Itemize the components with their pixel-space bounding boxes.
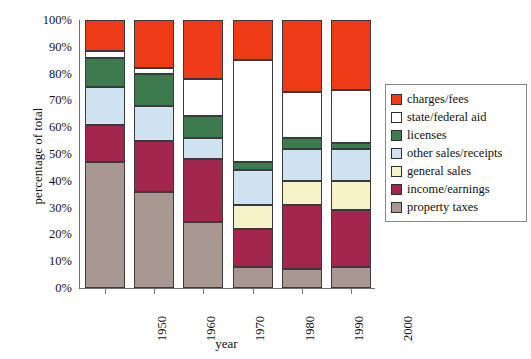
x-axis-title: year [79,336,374,352]
bar-segment[interactable] [233,205,273,229]
y-axis-tick-label: 100% [43,14,72,26]
bar-segment[interactable] [233,229,273,267]
bar-segment[interactable] [282,149,322,181]
bar-segment[interactable] [183,138,223,159]
bar-segment[interactable] [282,20,322,92]
bar-segment[interactable] [233,162,273,170]
y-axis-tick-label: 30% [49,202,72,214]
bar-segment[interactable] [331,90,371,144]
legend-item[interactable]: charges/fees [391,90,522,108]
legend-item-label: general sales [407,164,471,179]
legend-swatch-icon [391,94,402,105]
bar-segment[interactable] [282,138,322,149]
x-axis-tick-mark [203,289,204,294]
bar-segment[interactable] [233,267,273,288]
bar-segment[interactable] [331,267,371,288]
bar-segment[interactable] [282,92,322,138]
bar-segment[interactable] [85,51,125,58]
bar-segment[interactable] [85,162,125,288]
legend-swatch-icon [391,202,402,213]
legend-swatch-icon [391,148,402,159]
bar-stack [85,20,125,288]
legend-item[interactable]: property taxes [391,198,522,216]
x-axis-tick-mark [105,289,106,294]
legend-swatch-icon [391,130,402,141]
bar-segment[interactable] [134,192,174,288]
bar-stack [282,20,322,288]
legend-item[interactable]: income/earnings [391,180,522,198]
legend-item-label: other sales/receipts [407,146,502,161]
bar-segment[interactable] [85,125,125,163]
y-axis-tick-label: 10% [49,255,72,267]
bar-segment[interactable] [134,141,174,192]
legend-swatch-icon [391,166,402,177]
bar-segment[interactable] [331,143,371,148]
stacked-bar-chart: percentage of total 0%10%20%30%40%50%60%… [0,0,531,359]
legend-item[interactable]: state/federal aid [391,108,522,126]
bar-segment[interactable] [183,159,223,222]
x-axis-tick-mark [154,289,155,294]
bar-segment[interactable] [183,116,223,137]
bar-segment[interactable] [282,269,322,288]
y-axis-tick-label: 80% [49,68,72,80]
legend-swatch-icon [391,184,402,195]
legend-item-label: licenses [407,128,447,143]
x-axis-tick-mark [302,289,303,294]
bar-segment[interactable] [183,79,223,117]
x-axis-tick-mark [253,289,254,294]
bar-column-1960[interactable] [134,20,174,288]
bar-column-1980[interactable] [233,20,273,288]
bar-stack [233,20,273,288]
bar-segment[interactable] [331,149,371,181]
plot-area: 195019601970198019902000 [79,20,375,289]
bar-column-1970[interactable] [183,20,223,288]
y-axis-tick-label: 60% [49,121,72,133]
x-axis-tick-label: 2000 [401,316,416,359]
y-axis-tick-labels: 0%10%20%30%40%50%60%70%80%90%100% [36,14,72,290]
bar-stack [183,20,223,288]
bar-segment[interactable] [331,210,371,266]
legend-item-label: state/federal aid [407,110,486,125]
bar-column-2000[interactable] [331,20,371,288]
bar-segment[interactable] [134,106,174,141]
bar-segment[interactable] [282,181,322,205]
bar-segment[interactable] [233,20,273,60]
bar-segment[interactable] [85,20,125,51]
chart-legend: charges/feesstate/federal aidlicensesoth… [385,84,527,222]
bar-segment[interactable] [282,205,322,269]
bar-segment[interactable] [134,20,174,68]
bar-segment[interactable] [134,74,174,106]
legend-item-label: income/earnings [407,182,490,197]
bar-segment[interactable] [233,60,273,162]
legend-item[interactable]: general sales [391,162,522,180]
bar-segment[interactable] [134,68,174,73]
legend-item-label: charges/fees [407,92,469,107]
bar-segment[interactable] [331,20,371,90]
bar-segment[interactable] [233,170,273,205]
legend-item[interactable]: other sales/receipts [391,144,522,162]
x-axis-tick-mark [351,289,352,294]
y-axis-tick-label: 70% [49,94,72,106]
legend-swatch-icon [391,112,402,123]
bar-column-1990[interactable] [282,20,322,288]
y-axis-tick-label: 20% [49,228,72,240]
bar-stack [134,20,174,288]
legend-item-label: property taxes [407,200,478,215]
bar-column-1950[interactable] [85,20,125,288]
bar-segment[interactable] [85,58,125,87]
y-axis-tick-label: 90% [49,41,72,53]
y-axis-tick-label: 40% [49,175,72,187]
bar-stack [331,20,371,288]
bar-segment[interactable] [331,181,371,210]
bar-segment[interactable] [183,222,223,288]
bar-segment[interactable] [85,87,125,125]
y-axis-tick-label: 50% [49,148,72,160]
legend-item[interactable]: licenses [391,126,522,144]
bar-segment[interactable] [183,20,223,79]
y-axis-tick-label: 0% [55,282,72,294]
